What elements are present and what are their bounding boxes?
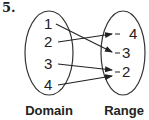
- range-value: 4: [129, 25, 137, 42]
- range-value: 2: [122, 63, 130, 80]
- domain-value: 1: [44, 15, 52, 32]
- domain-value: 4: [44, 76, 52, 93]
- mapping-diagram: 1 2 3 4 4 3 2 Domain Range: [0, 0, 149, 120]
- domain-value: 2: [44, 33, 52, 50]
- mapping-arrow-3-to-2: [58, 64, 112, 70]
- mapping-arrow-2-to-4: [58, 34, 112, 42]
- range-label: Range: [104, 103, 144, 118]
- mapping-arrow-4-to-2: [58, 76, 112, 85]
- domain-label: Domain: [25, 103, 73, 118]
- domain-value: 3: [44, 55, 52, 72]
- range-value: 3: [122, 44, 130, 61]
